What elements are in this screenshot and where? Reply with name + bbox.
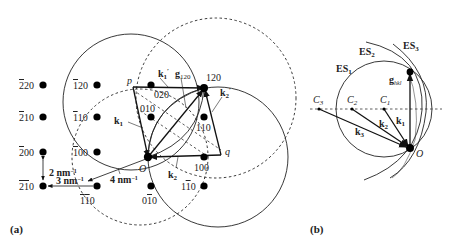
label-k2: k2 bbox=[168, 169, 178, 182]
spot-1bar20 bbox=[93, 81, 100, 88]
label-k2-prime: k2′ bbox=[220, 86, 231, 100]
spot-100 bbox=[200, 153, 207, 160]
leader-k2 bbox=[176, 157, 178, 168]
svg-text:220: 220 bbox=[19, 80, 34, 91]
spot-010 bbox=[147, 113, 154, 120]
label-g120: g120 bbox=[175, 68, 191, 81]
diffraction-diagram: 220 210 200 210 120 110 100 110 020 010 … bbox=[0, 0, 458, 245]
svg-text:120: 120 bbox=[73, 80, 88, 91]
leader-g120 bbox=[181, 78, 186, 108]
svg-text:210: 210 bbox=[19, 181, 34, 192]
scale-label-3nm: 3 nm−1 bbox=[56, 175, 84, 186]
label-es3: ES3 bbox=[403, 40, 419, 53]
label-origin: O bbox=[139, 163, 146, 174]
svg-text:110: 110 bbox=[181, 181, 196, 192]
svg-text:210: 210 bbox=[19, 112, 34, 123]
origin-spot bbox=[144, 153, 152, 161]
panel-b: ES1 ES2 ES3 ghkl C1 C2 C3 k1 k2 k3 O (b) bbox=[310, 40, 442, 236]
spot-210bar bbox=[39, 113, 46, 120]
origin-spot-b bbox=[406, 144, 414, 152]
edge-p-O bbox=[133, 87, 148, 157]
svg-text:120: 120 bbox=[206, 72, 221, 83]
svg-text:010: 010 bbox=[142, 195, 157, 206]
spot-120 bbox=[200, 84, 208, 92]
svg-text:100: 100 bbox=[73, 147, 88, 158]
svg-text:010: 010 bbox=[140, 103, 155, 114]
leader-k2-prime bbox=[212, 97, 222, 112]
label-es2: ES2 bbox=[359, 46, 375, 59]
label-c1: C1 bbox=[380, 94, 390, 107]
label-p: p bbox=[126, 75, 132, 86]
label-k1-prime: k1′ bbox=[158, 67, 169, 81]
svg-text:020: 020 bbox=[154, 89, 169, 100]
label-es1: ES1 bbox=[336, 63, 352, 76]
svg-text:100: 100 bbox=[194, 162, 209, 173]
label-k2-b: k2 bbox=[379, 118, 389, 131]
spot-11bar0 bbox=[200, 182, 207, 189]
svg-text:110: 110 bbox=[73, 112, 88, 123]
spot-110 bbox=[200, 113, 207, 120]
label-c2: C2 bbox=[347, 94, 358, 107]
panel-b-label: (b) bbox=[310, 223, 324, 236]
center-c2 bbox=[350, 107, 353, 110]
svg-text:200: 200 bbox=[19, 147, 34, 158]
k3-vector-b bbox=[319, 109, 406, 147]
spot-0bar10 bbox=[147, 182, 154, 189]
label-g-hkl: ghkl bbox=[389, 74, 402, 86]
spot-1bar10 bbox=[93, 113, 100, 120]
svg-text:110: 110 bbox=[80, 195, 95, 206]
panel-a: 220 210 200 210 120 110 100 110 020 010 … bbox=[10, 18, 296, 236]
spot-200bar bbox=[39, 148, 46, 155]
spot-220bar bbox=[39, 81, 46, 88]
edge-p-120 bbox=[133, 87, 204, 88]
label-q: q bbox=[225, 146, 230, 157]
label-origin-b: O bbox=[416, 148, 423, 159]
spot-1bar1bar0 bbox=[93, 182, 100, 189]
g-hkl-spot bbox=[407, 69, 414, 76]
scale-label-4nm: 4 nm−1 bbox=[110, 174, 138, 185]
label-k1: k1 bbox=[114, 115, 124, 128]
label-k1-b: k1 bbox=[396, 115, 406, 128]
center-c3 bbox=[317, 107, 320, 110]
spot-020 bbox=[147, 81, 154, 88]
svg-text:110: 110 bbox=[196, 122, 211, 133]
spot-1bar00 bbox=[93, 148, 100, 155]
panel-a-label: (a) bbox=[10, 223, 23, 236]
label-c3: C3 bbox=[313, 94, 324, 107]
center-c1 bbox=[382, 107, 385, 110]
spot-2bar1bar0 bbox=[39, 182, 46, 189]
